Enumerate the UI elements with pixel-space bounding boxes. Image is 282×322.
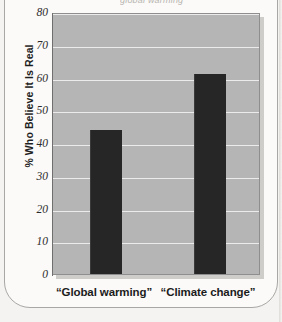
- x-tick-label: “Global warming”: [52, 286, 156, 298]
- y-axis-line: [52, 13, 53, 276]
- y-axis-title: % Who Believe It Is Real: [23, 31, 35, 181]
- gridline: [53, 80, 259, 81]
- y-tick-label: 20: [4, 204, 48, 216]
- gridline: [53, 243, 259, 244]
- gridline: [53, 145, 259, 146]
- gridline: [53, 14, 259, 15]
- y-tick-label: 10: [4, 236, 48, 248]
- bar-chart: 01020304050607080 % Who Believe It Is Re…: [0, 0, 282, 322]
- y-tick-label: 0: [4, 269, 48, 281]
- x-tick-label: “Climate change”: [156, 286, 260, 298]
- gridline: [53, 178, 259, 179]
- gridline: [53, 47, 259, 48]
- gridline: [53, 211, 259, 212]
- bar: [194, 74, 226, 274]
- plot-area: [52, 13, 260, 275]
- chart-page: global warming 01020304050607080 % Who B…: [0, 0, 282, 322]
- bar: [90, 130, 122, 274]
- gridline: [53, 112, 259, 113]
- y-tick-label: 80: [4, 7, 48, 19]
